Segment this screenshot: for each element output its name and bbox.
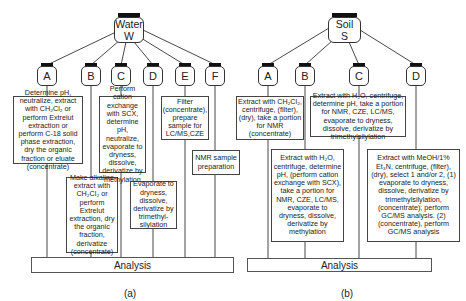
water-node-a: A xyxy=(37,66,57,86)
water-analysis-bar: Analysis xyxy=(31,257,234,273)
step-text: Evaporate to dryness, dissolve, derivati… xyxy=(132,180,175,229)
water-step-e: Filter (concentrate), prepare sample for… xyxy=(161,96,209,140)
step-text: Extract with H₂O, centrifuge, determine … xyxy=(273,154,342,236)
water-step-a: Determine pH, neutralize, extract with C… xyxy=(13,96,83,164)
root-node-water: Water W xyxy=(114,17,144,43)
water-step-d: Evaporate to dryness, dissolve, derivati… xyxy=(130,181,177,229)
step-text: Filter (concentrate), prepare sample for… xyxy=(163,98,207,139)
water-node-f: F xyxy=(205,66,225,86)
step-text: Determine pH, neutralize, extract with C… xyxy=(15,89,81,171)
caption-a: (a) xyxy=(110,288,150,299)
water-node-b: B xyxy=(81,66,101,86)
water-step-b: Make alkaline extract with CH₂Cl₂ or per… xyxy=(66,177,118,253)
water-step-f: NMR sample preparation xyxy=(192,150,240,175)
root-symbol-water: W xyxy=(124,30,134,42)
water-node-e: E xyxy=(175,66,195,86)
soil-node-d: D xyxy=(406,66,426,86)
step-text: Extract with CH₂Cl₂, centrifuge, (filter… xyxy=(238,98,302,139)
root-node-soil: Soil S xyxy=(328,17,361,43)
root-label-soil: Soil xyxy=(336,18,354,30)
soil-step-c: Extract with H₂O, centrifuge, determine … xyxy=(310,96,406,137)
step-text: Extract with MeOH/1% Et₃N, centrifuge, (… xyxy=(369,154,458,236)
soil-analysis-bar: Analysis xyxy=(247,258,432,272)
step-text: NMR sample preparation xyxy=(194,154,238,170)
soil-node-a: A xyxy=(258,66,278,86)
soil-step-d: Extract with MeOH/1% Et₃N, centrifuge, (… xyxy=(367,149,460,242)
soil-node-b: B xyxy=(295,66,315,86)
water-step-c: Perform cation exchange with SCX, determ… xyxy=(99,96,146,173)
step-text: Make alkaline extract with CH₂Cl₂ or per… xyxy=(68,174,116,256)
root-symbol-soil: S xyxy=(341,30,348,42)
soil-step-a: Extract with CH₂Cl₂, centrifuge, (filter… xyxy=(236,96,304,140)
caption-b: (b) xyxy=(327,288,367,299)
step-text: Extract with H₂O, centrifuge, determine … xyxy=(312,92,404,141)
soil-step-b: Extract with H₂O, centrifuge, determine … xyxy=(271,149,344,242)
soil-node-c: C xyxy=(349,66,369,86)
water-node-d: D xyxy=(143,66,163,86)
water-node-c: C xyxy=(111,66,131,86)
step-text: Perform cation exchange with SCX, determ… xyxy=(101,85,144,183)
root-label-water: Water xyxy=(115,18,143,30)
